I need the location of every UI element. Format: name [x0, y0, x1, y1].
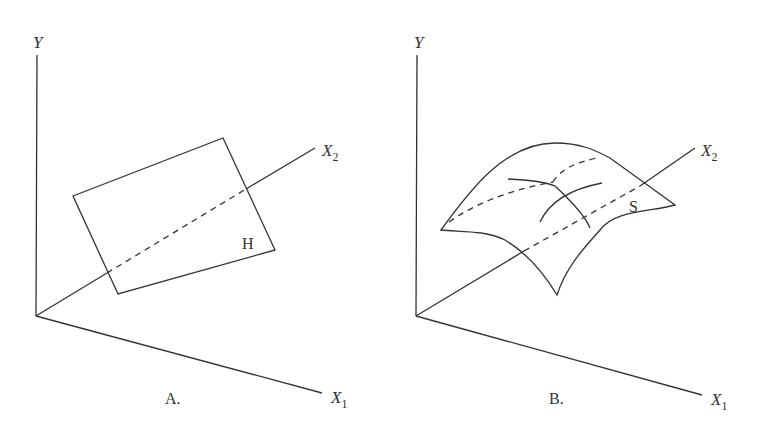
- x2-axis-back: [246, 148, 315, 189]
- y-axis: [36, 55, 37, 316]
- x2-axis-label: X2: [700, 141, 717, 164]
- x2-axis-back: [640, 148, 695, 186]
- x1-axis: [416, 316, 702, 395]
- plane-h: [73, 138, 275, 294]
- x2-axis-front: [36, 273, 107, 316]
- figure: Y X2 X1 H A. Y X2 X1 S B.: [0, 0, 757, 441]
- x1-axis-label: X1: [330, 388, 347, 411]
- y-axis: [416, 55, 417, 316]
- surface-contour-1: [508, 179, 590, 228]
- x1-axis-label: X1: [710, 390, 727, 413]
- surface-hidden-curve-1: [449, 182, 553, 222]
- surface-hidden-curve-2: [553, 158, 598, 182]
- panel-caption-b: B.: [549, 390, 564, 407]
- panel-caption-a: A.: [165, 390, 181, 407]
- y-axis-label: Y: [414, 33, 425, 52]
- x2-axis-front: [416, 251, 524, 316]
- panel-b: Y X2 X1 S B.: [414, 33, 727, 413]
- x1-axis: [36, 316, 322, 393]
- panel-a: Y X2 X1 H A.: [33, 33, 347, 411]
- y-axis-label: Y: [33, 33, 44, 52]
- x2-axis-hidden: [107, 189, 246, 273]
- surface-s: [441, 143, 675, 295]
- x2-axis-label: X2: [321, 141, 338, 164]
- surface-label: S: [629, 198, 638, 215]
- plane-label: H: [242, 235, 254, 252]
